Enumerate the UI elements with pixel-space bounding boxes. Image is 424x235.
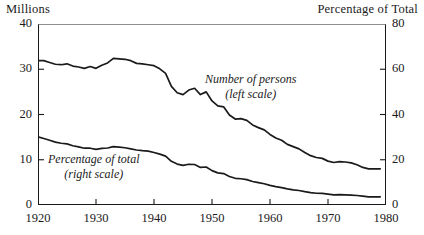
x-tick-1970: 1970 [303,211,353,226]
y-left-tick-30: 30 [4,61,32,76]
x-tick-1980: 1980 [361,211,411,226]
y-right-tick-40: 40 [392,107,422,122]
y-left-tick-40: 40 [4,16,32,31]
x-tick-1940: 1940 [129,211,179,226]
y-right-tick-20: 20 [392,152,422,167]
x-tick-1950: 1950 [187,211,237,226]
y-left-tick-0: 0 [4,197,32,212]
annotation-persons-line1: Number of persons [205,72,296,86]
x-tick-1960: 1960 [245,211,295,226]
chart-figure: Millions Percentage of Total 010203040 0… [0,0,424,235]
y-left-tick-10: 10 [4,152,32,167]
right-axis-caption: Percentage of Total [317,2,418,17]
y-left-tick-20: 20 [4,107,32,122]
annotation-percentage-of-total: Percentage of total (right scale) [48,152,140,181]
annotation-percent-line1: Percentage of total [48,152,140,166]
y-right-tick-80: 80 [392,16,422,31]
annotation-persons-line2: (left scale) [205,87,296,102]
x-tick-1920: 1920 [13,211,63,226]
annotation-percent-line2: (right scale) [48,167,140,182]
y-right-tick-60: 60 [392,61,422,76]
left-axis-caption: Millions [6,2,50,17]
y-right-tick-0: 0 [392,197,422,212]
annotation-number-of-persons: Number of persons (left scale) [205,72,296,101]
x-tick-1930: 1930 [71,211,121,226]
